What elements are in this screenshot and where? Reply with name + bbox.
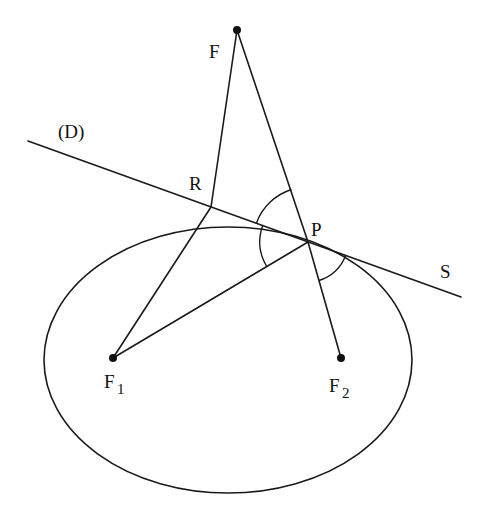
point-f: [233, 26, 241, 34]
segment-p-f2: [308, 242, 341, 358]
ellipse-reflection-diagram: F (D) R P S F 1 F 2: [0, 0, 479, 507]
segment-f-p: [237, 30, 308, 242]
point-f1: [109, 354, 117, 362]
label-f2: F: [329, 375, 340, 396]
segment-r-f1: [113, 207, 211, 358]
angle-arc-d-p-f1: [260, 226, 267, 267]
ellipse: [44, 227, 412, 493]
point-f2: [337, 354, 345, 362]
segment-f1-p: [113, 242, 308, 358]
label-s: S: [440, 261, 451, 282]
angle-arc-s-p-f2: [319, 256, 346, 281]
label-p: P: [311, 219, 322, 240]
label-f1: F: [104, 371, 115, 392]
label-r: R: [189, 173, 202, 194]
label-d: (D): [58, 121, 84, 143]
label-f2-subscript: 2: [342, 385, 350, 401]
label-f: F: [209, 41, 220, 62]
tangent-line-d: [28, 141, 461, 297]
angle-arc-f-p-d: [256, 190, 291, 224]
label-f1-subscript: 1: [117, 381, 125, 397]
